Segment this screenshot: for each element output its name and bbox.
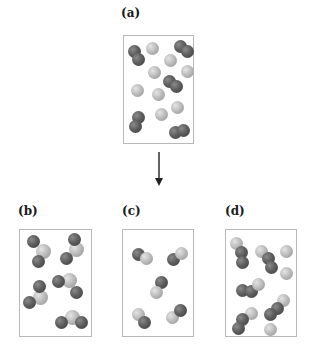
- dark-atom: [68, 233, 81, 246]
- dark-atom: [32, 255, 45, 268]
- dark-atom: [132, 53, 145, 66]
- dark-atom: [181, 45, 194, 58]
- light-atom: [280, 267, 293, 280]
- panel-label-a: (a): [121, 6, 140, 20]
- dark-atom: [174, 304, 187, 317]
- dark-atom: [170, 80, 183, 93]
- light-atom: [181, 65, 194, 78]
- dark-atom: [70, 286, 83, 299]
- dark-atom: [265, 261, 278, 274]
- light-atom: [150, 286, 163, 299]
- light-atom: [131, 84, 144, 97]
- light-atom: [148, 66, 161, 79]
- dark-atom: [33, 280, 46, 293]
- light-atom: [280, 245, 293, 258]
- panel-label-d: (d): [225, 204, 245, 218]
- light-atom: [146, 42, 159, 55]
- dark-atom: [27, 235, 40, 248]
- dark-atom: [264, 308, 277, 321]
- panel-a-box: [123, 35, 194, 144]
- dark-atom: [177, 124, 190, 137]
- panel-c-box: [122, 229, 194, 337]
- panel-label-b: (b): [18, 204, 38, 218]
- reaction-arrow-down-icon: [152, 152, 166, 188]
- light-atom: [171, 101, 184, 114]
- dark-atom: [138, 316, 151, 329]
- light-atom: [140, 252, 153, 265]
- dark-atom: [236, 256, 249, 269]
- dark-atom: [55, 316, 68, 329]
- light-atom: [252, 278, 265, 291]
- panel-label-c: (c): [122, 204, 141, 218]
- light-atom: [155, 108, 168, 121]
- dark-atom: [232, 322, 245, 335]
- light-atom: [264, 323, 277, 336]
- light-atom: [152, 88, 165, 101]
- light-atom: [175, 247, 188, 260]
- dark-atom: [23, 296, 36, 309]
- dark-atom: [52, 275, 65, 288]
- light-atom: [164, 54, 177, 67]
- dark-atom: [75, 316, 88, 329]
- panel-d-box: [225, 229, 297, 337]
- panel-b-box: [19, 229, 92, 337]
- dark-atom: [60, 252, 73, 265]
- dark-atom: [129, 120, 142, 133]
